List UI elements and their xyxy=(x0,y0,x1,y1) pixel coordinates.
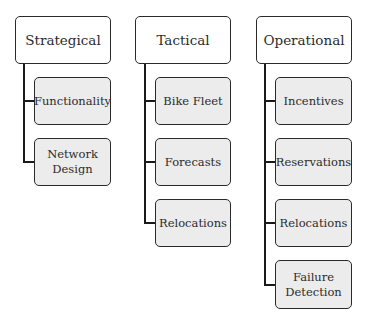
node-operational: Operational xyxy=(256,16,352,64)
node-label: Incentives xyxy=(283,94,343,109)
node-label: Relocations xyxy=(159,216,227,231)
node-functionality: Functionality xyxy=(34,77,111,125)
node-label: Failure Detection xyxy=(285,270,342,300)
connector-vertical xyxy=(144,64,146,224)
connector-vertical xyxy=(23,64,25,163)
node-label: Reservations xyxy=(276,155,352,170)
connector-horizontal xyxy=(23,100,34,102)
node-label: Operational xyxy=(263,33,344,48)
connector-horizontal xyxy=(144,222,155,224)
node-forecasts: Forecasts xyxy=(155,138,231,186)
node-incentives: Incentives xyxy=(275,77,352,125)
node-bike-fleet: Bike Fleet xyxy=(155,77,231,125)
node-label: Tactical xyxy=(156,33,209,48)
node-label: Forecasts xyxy=(165,155,221,170)
node-relocations-tactical: Relocations xyxy=(155,199,231,247)
node-label: Bike Fleet xyxy=(163,94,222,109)
connector-horizontal xyxy=(264,100,275,102)
node-label: Network Design xyxy=(47,147,98,177)
node-network-design: Network Design xyxy=(34,138,111,186)
connector-horizontal xyxy=(23,161,34,163)
node-label: Strategical xyxy=(25,33,100,48)
node-label: Relocations xyxy=(280,216,348,231)
node-failure-detection: Failure Detection xyxy=(275,260,352,309)
connector-horizontal xyxy=(144,100,155,102)
connector-horizontal xyxy=(144,161,155,163)
node-strategical: Strategical xyxy=(15,16,111,64)
node-relocations-operational: Relocations xyxy=(275,199,352,247)
connector-horizontal xyxy=(264,222,275,224)
connector-horizontal xyxy=(264,284,275,286)
node-label: Functionality xyxy=(34,94,111,109)
node-tactical: Tactical xyxy=(135,16,231,64)
connector-vertical xyxy=(264,64,266,286)
node-reservations: Reservations xyxy=(275,138,352,186)
connector-horizontal xyxy=(264,161,275,163)
